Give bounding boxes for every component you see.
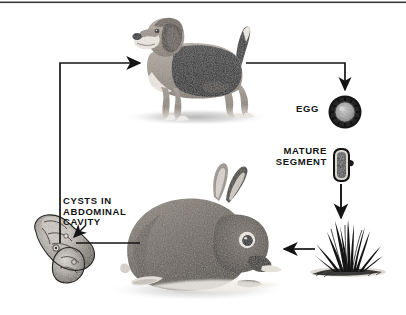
label-cysts-in-abdominal-cavity: CYSTS IN ABDOMINAL CAVITY (63, 196, 126, 228)
label-egg: EGG (296, 104, 319, 115)
arrow-layer (0, 0, 406, 315)
life-cycle-diagram: EGG MATURE SEGMENT CYSTS IN ABDOMINAL CA… (0, 0, 406, 315)
label-mature-segment: MATURE SEGMENT (271, 146, 327, 167)
arrow-dog-to-egg (246, 63, 345, 90)
